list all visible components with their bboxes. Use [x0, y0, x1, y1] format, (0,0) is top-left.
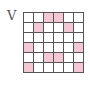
- grid-cell: [44, 13, 54, 23]
- grid-cell: [64, 13, 74, 23]
- grid-cell: [54, 53, 64, 63]
- grid-cell: [34, 13, 44, 23]
- grid-cell: [54, 33, 64, 43]
- grid-cell: [74, 53, 84, 63]
- grid-cell: [44, 33, 54, 43]
- grid-cell: [64, 53, 74, 63]
- grid-cell: [44, 53, 54, 63]
- grid-cell: [54, 23, 64, 33]
- pixel-grid: [23, 12, 84, 73]
- grid-cell: [64, 33, 74, 43]
- grid-cell: [24, 13, 34, 23]
- grid-cell: [54, 63, 64, 73]
- grid-label: V: [7, 9, 16, 22]
- grid-cell: [44, 43, 54, 53]
- grid-cell: [34, 33, 44, 43]
- grid-cell: [24, 53, 34, 63]
- grid-cell: [24, 33, 34, 43]
- grid-cell: [64, 63, 74, 73]
- grid-cell: [74, 43, 84, 53]
- grid-cell: [24, 23, 34, 33]
- grid-cell: [24, 63, 34, 73]
- grid-cell: [54, 43, 64, 53]
- grid-cell: [64, 23, 74, 33]
- grid-cell: [74, 13, 84, 23]
- grid-cell: [34, 53, 44, 63]
- grid-cell: [74, 33, 84, 43]
- grid-cell: [24, 43, 34, 53]
- grid-cell: [74, 23, 84, 33]
- grid-cell: [64, 43, 74, 53]
- grid-cell: [34, 43, 44, 53]
- grid-cell: [74, 63, 84, 73]
- grid-cell: [54, 13, 64, 23]
- grid-cell: [34, 23, 44, 33]
- grid-cell: [44, 63, 54, 73]
- grid-cell: [34, 63, 44, 73]
- grid-cell: [44, 23, 54, 33]
